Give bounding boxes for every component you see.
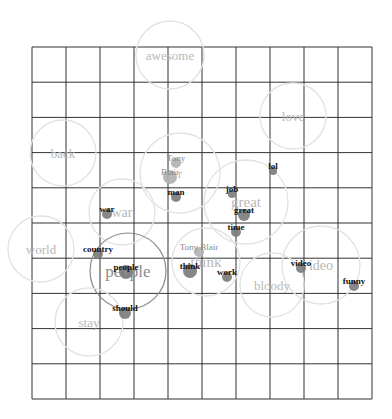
word-label-man: man	[167, 187, 184, 197]
diagram-canvas: awesomelovebackrgreatwarworldpeoplethink…	[0, 0, 392, 419]
cluster-label-awesome: awesome	[146, 48, 195, 63]
word-label-great: great	[234, 205, 254, 215]
cluster-label-war: war	[112, 205, 133, 220]
word-cluster-diagram: awesomelovebackrgreatwarworldpeoplethink…	[0, 0, 392, 419]
word-label-lol: lol	[268, 161, 278, 171]
cluster-label-world: world	[26, 242, 57, 257]
word-label-blair: Blair	[161, 167, 179, 177]
cluster-label-love: love	[282, 109, 305, 124]
word-label-tony: Tony	[167, 153, 186, 163]
cluster-label-stay: stay	[79, 315, 100, 330]
cluster-label-back: back	[51, 146, 76, 161]
word-label-should: should	[112, 303, 138, 313]
word-label-country: country	[83, 244, 113, 254]
cluster-label-bloody: bloody	[254, 278, 291, 293]
word-label-think: think	[180, 261, 201, 271]
word-label-funny: funny	[343, 276, 366, 286]
word-label-job: job	[225, 184, 239, 194]
word-label-people: people	[113, 262, 138, 272]
cluster-label-ideo: ideo	[309, 258, 333, 273]
grid	[32, 47, 372, 399]
word-label-war: war	[100, 204, 115, 214]
word-label-work: work	[217, 267, 237, 277]
word-label-time: time	[228, 222, 245, 232]
word-label-video: video	[291, 258, 312, 268]
word-label-tony-blair: Tony Blair	[180, 242, 219, 252]
